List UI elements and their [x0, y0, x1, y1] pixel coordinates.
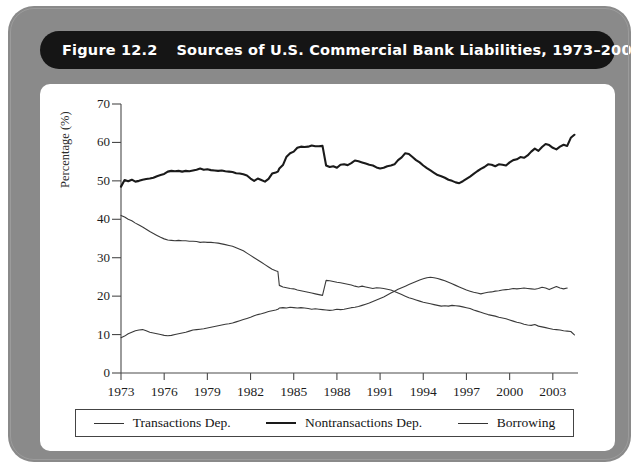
series-line: [121, 277, 567, 337]
legend-item: Transactions Dep.: [94, 415, 231, 431]
y-axis-tick-label: 70: [68, 96, 110, 112]
chart-card: Percentage (%) 010203040506070 197319761…: [40, 84, 615, 451]
legend-line-icon: [94, 423, 124, 424]
y-axis-tick-label: 30: [68, 250, 110, 266]
x-axis-ticks: [121, 373, 553, 380]
line-chart-svg: [40, 84, 615, 409]
y-axis-tick-label: 40: [68, 211, 110, 227]
legend-item: Nontransactions Dep.: [266, 415, 422, 431]
data-series-group: [121, 135, 574, 338]
x-axis-tick-label: 2003: [527, 384, 579, 400]
legend-label: Transactions Dep.: [133, 415, 231, 431]
axis-lines: [121, 104, 578, 373]
legend-line-icon: [458, 423, 488, 424]
series-line: [121, 135, 574, 187]
legend-label: Borrowing: [497, 415, 556, 431]
figure-title-bar: Figure 12.2 Sources of U.S. Commercial B…: [40, 31, 615, 69]
legend-line-icon: [266, 422, 296, 424]
chart-legend: Transactions Dep.Nontransactions Dep.Bor…: [75, 409, 574, 437]
legend-item: Borrowing: [458, 415, 556, 431]
figure-number: Figure 12.2: [62, 42, 158, 58]
figure-title: Figure 12.2 Sources of U.S. Commercial B…: [62, 42, 639, 58]
figure-title-text: Sources of U.S. Commercial Bank Liabilit…: [176, 42, 639, 58]
figure-outer-frame: Figure 12.2 Sources of U.S. Commercial B…: [8, 6, 631, 462]
series-line: [121, 215, 574, 335]
legend-label: Nontransactions Dep.: [305, 415, 422, 431]
y-axis-tick-label: 10: [68, 327, 110, 343]
y-axis-tick-label: 60: [68, 134, 110, 150]
y-axis-tick-label: 20: [68, 288, 110, 304]
plot-area: Percentage (%) 010203040506070 197319761…: [40, 84, 615, 409]
y-axis-tick-label: 50: [68, 173, 110, 189]
y-axis-ticks: [112, 104, 121, 373]
y-axis-tick-label: 0: [68, 365, 110, 381]
